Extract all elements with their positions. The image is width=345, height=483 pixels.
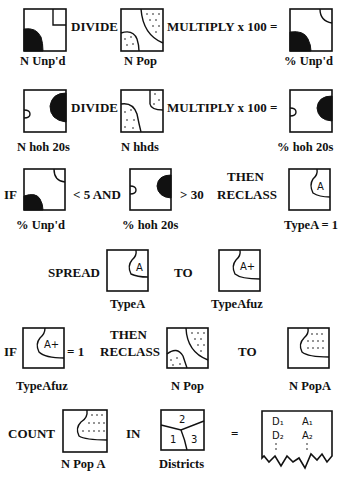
- map-n-pop-2: [167, 328, 208, 368]
- map-n-hhds: [121, 90, 163, 132]
- output-table: D₁ A₁ D₂ A₂: [261, 410, 333, 472]
- op-then: THEN: [227, 170, 264, 183]
- table-d1: D₁: [272, 416, 284, 427]
- map-n-popa: [288, 328, 329, 368]
- op-if-2: IF: [4, 345, 17, 358]
- label-n-pop: N Pop: [124, 55, 157, 68]
- op-if: IF: [4, 188, 17, 201]
- label-n-unpd: N Unp'd: [20, 55, 66, 68]
- op-equals: =: [231, 427, 238, 440]
- symbol-a: A: [317, 181, 324, 192]
- label-n-hhds: N hhds: [121, 141, 159, 154]
- label-n-pop-a: N Pop A: [61, 458, 105, 471]
- map-n-pop-a: [63, 410, 107, 452]
- map-typeafuz-cond: A+: [23, 328, 64, 368]
- label-districts: Districts: [159, 458, 204, 471]
- label-pct-unpd: % Unp'd: [284, 55, 333, 68]
- label-n-pop-2: N Pop: [171, 380, 204, 393]
- op-then-2: THEN: [110, 328, 147, 341]
- table-d2: D₂: [272, 430, 284, 441]
- op-spread: SPREAD: [48, 266, 100, 279]
- map-n-pop: [121, 9, 163, 51]
- district-3: 3: [191, 434, 197, 445]
- op-divide: DIVIDE: [71, 20, 118, 33]
- label-pct-unpd-cond: % Unp'd: [16, 219, 65, 232]
- table-a2: A₂: [302, 430, 313, 441]
- op-to-2: TO: [238, 345, 257, 358]
- map-n-hoh-20s: [24, 90, 66, 132]
- map-pct-hoh-20s-cond: [130, 169, 171, 210]
- symbol-a-plus-cond: A+: [44, 339, 59, 350]
- op-gt30: > 30: [180, 188, 204, 201]
- label-typea-eq-1: TypeA = 1: [284, 219, 338, 232]
- label-n-popa: N PopA: [289, 380, 331, 393]
- label-n-hoh-20s: N hoh 20s: [17, 141, 70, 154]
- symbol-a-typea: A: [136, 262, 143, 273]
- map-typeafuz: A+: [219, 250, 260, 291]
- map-typea: A: [107, 250, 148, 291]
- district-2: 2: [179, 414, 185, 425]
- op-in: IN: [126, 427, 140, 440]
- op-to: TO: [174, 266, 193, 279]
- op-eq1: = 1: [67, 345, 84, 358]
- label-pct-hoh-20s: % hoh 20s: [277, 141, 333, 154]
- map-pct-unpd: [290, 9, 332, 51]
- symbol-a-plus: A+: [240, 261, 255, 272]
- op-reclass-2: RECLASS: [100, 345, 160, 358]
- op-reclass: RECLASS: [217, 188, 277, 201]
- op-multiply-2: MULTIPLY x 100 =: [167, 101, 277, 114]
- district-1: 1: [170, 434, 176, 445]
- label-typeafuz-cond: TypeAfuz: [16, 380, 68, 393]
- map-pct-hoh-20s: [290, 90, 332, 132]
- table-continuation-dots: [275, 443, 308, 450]
- map-districts: 2 1 3: [161, 410, 204, 450]
- table-a1: A₁: [302, 416, 313, 427]
- op-multiply: MULTIPLY x 100 =: [167, 20, 277, 33]
- label-typea: TypeA: [110, 298, 145, 311]
- op-divide-2: DIVIDE: [71, 101, 118, 114]
- op-count: COUNT: [8, 427, 55, 440]
- label-typeafuz: TypeAfuz: [211, 298, 263, 311]
- map-n-unpd: [24, 9, 66, 51]
- label-pct-hoh-20s-cond: % hoh 20s: [122, 219, 178, 232]
- op-lt5-and: < 5 AND: [73, 188, 121, 201]
- map-typea-result: A: [289, 169, 330, 210]
- map-pct-unpd-cond: [24, 169, 65, 210]
